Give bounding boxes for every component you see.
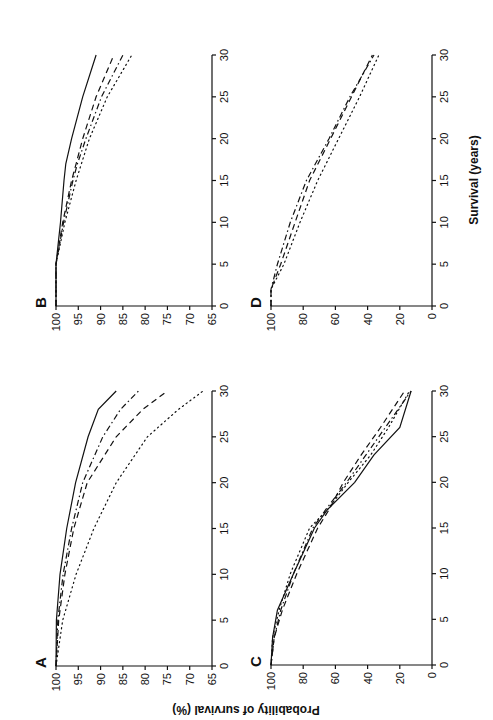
y-tick-label: 80 bbox=[297, 313, 309, 325]
x-tick-label: 5 bbox=[438, 261, 450, 267]
y-tick-label: 65 bbox=[206, 313, 218, 325]
x-tick-label: 30 bbox=[218, 385, 230, 397]
y-tick-label: 40 bbox=[362, 313, 374, 325]
series-dotted bbox=[271, 55, 379, 306]
y-tick-label: 80 bbox=[297, 672, 309, 684]
y-tick-label: 100 bbox=[265, 313, 277, 331]
x-tick-label: 20 bbox=[218, 477, 230, 489]
series-dash-dot bbox=[271, 391, 411, 665]
y-tick-label: 70 bbox=[184, 313, 196, 325]
series-solid bbox=[56, 391, 116, 666]
panel-d: 100806040200051015202530D bbox=[247, 49, 450, 331]
y-tick-label: 100 bbox=[265, 672, 277, 690]
y-tick-label: 85 bbox=[117, 673, 129, 685]
series-dotted bbox=[271, 391, 410, 665]
series-dotted bbox=[56, 391, 203, 666]
y-axis-title: Probability of survival (%) bbox=[172, 703, 319, 717]
y-tick-label: 95 bbox=[72, 313, 84, 325]
series-dashed bbox=[56, 391, 167, 666]
x-tick-label: 10 bbox=[218, 568, 230, 580]
x-tick-label: 5 bbox=[438, 616, 450, 622]
x-tick-label: 20 bbox=[438, 476, 450, 488]
panel-label: D bbox=[247, 297, 264, 308]
y-tick-label: 100 bbox=[50, 313, 62, 331]
panel-label: C bbox=[247, 656, 264, 667]
y-tick-label: 65 bbox=[206, 673, 218, 685]
panel-b: 10095908580757065051015202530B bbox=[32, 49, 230, 331]
series-dash-dot bbox=[271, 55, 374, 306]
series-dotted bbox=[56, 55, 132, 306]
series-dashed bbox=[56, 55, 114, 306]
y-tick-label: 90 bbox=[95, 313, 107, 325]
x-tick-label: 0 bbox=[218, 663, 230, 669]
x-tick-label: 15 bbox=[438, 522, 450, 534]
y-tick-label: 80 bbox=[139, 313, 151, 325]
x-tick-label: 10 bbox=[438, 568, 450, 580]
x-tick-label: 25 bbox=[438, 91, 450, 103]
y-tick-label: 75 bbox=[161, 673, 173, 685]
series-solid bbox=[271, 391, 411, 665]
x-tick-label: 25 bbox=[438, 431, 450, 443]
x-tick-label: 25 bbox=[218, 431, 230, 443]
y-tick-label: 95 bbox=[72, 673, 84, 685]
x-tick-label: 30 bbox=[438, 49, 450, 61]
panel-c: 100806040200051015202530C bbox=[247, 385, 450, 690]
survival-figure: 10095908580757065051015202530A1009590858… bbox=[0, 0, 493, 720]
y-tick-label: 60 bbox=[329, 313, 341, 325]
figure-canvas: 10095908580757065051015202530A1009590858… bbox=[0, 0, 493, 720]
series-dashed bbox=[271, 391, 405, 665]
x-tick-label: 5 bbox=[218, 617, 230, 623]
x-tick-label: 0 bbox=[438, 662, 450, 668]
y-tick-label: 90 bbox=[95, 673, 107, 685]
y-tick-label: 85 bbox=[117, 313, 129, 325]
x-tick-label: 20 bbox=[438, 133, 450, 145]
panel-a: 10095908580757065051015202530A bbox=[32, 385, 230, 691]
x-tick-label: 25 bbox=[218, 91, 230, 103]
y-tick-label: 70 bbox=[184, 673, 196, 685]
x-tick-label: 0 bbox=[218, 303, 230, 309]
y-tick-label: 20 bbox=[394, 672, 406, 684]
x-axis-title: Survival (years) bbox=[467, 135, 481, 224]
x-tick-label: 30 bbox=[438, 385, 450, 397]
y-tick-label: 0 bbox=[426, 672, 438, 678]
x-tick-label: 20 bbox=[218, 133, 230, 145]
x-tick-label: 30 bbox=[218, 49, 230, 61]
x-tick-label: 15 bbox=[218, 174, 230, 186]
series-dash-dot bbox=[56, 55, 123, 306]
x-tick-label: 10 bbox=[218, 216, 230, 228]
y-tick-label: 100 bbox=[50, 673, 62, 691]
series-dash-dot bbox=[56, 391, 139, 666]
series-dashed bbox=[271, 55, 372, 306]
x-tick-label: 10 bbox=[438, 216, 450, 228]
y-tick-label: 20 bbox=[394, 313, 406, 325]
x-tick-label: 0 bbox=[438, 303, 450, 309]
y-tick-label: 0 bbox=[426, 313, 438, 319]
y-tick-label: 80 bbox=[139, 673, 151, 685]
panel-label: B bbox=[32, 297, 49, 308]
y-tick-label: 40 bbox=[362, 672, 374, 684]
y-tick-label: 75 bbox=[161, 313, 173, 325]
x-tick-label: 15 bbox=[218, 522, 230, 534]
panel-label: A bbox=[32, 657, 49, 668]
x-tick-label: 5 bbox=[218, 261, 230, 267]
x-tick-label: 15 bbox=[438, 174, 450, 186]
y-tick-label: 60 bbox=[329, 672, 341, 684]
